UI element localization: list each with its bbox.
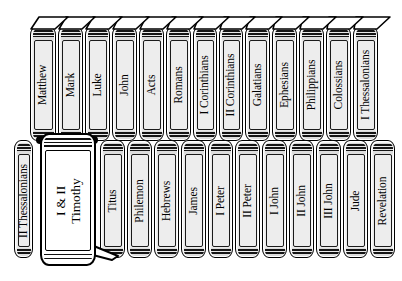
spine-panel: Colossians <box>330 40 348 130</box>
spine-panel: Matthew <box>34 40 53 130</box>
spine-tail-bands <box>302 131 322 139</box>
spine-head-bands <box>184 143 204 154</box>
book-spine[interactable]: Luke <box>85 26 110 141</box>
book-spine[interactable]: Matthew <box>30 26 56 141</box>
spine-panel: Hebrews <box>158 154 176 247</box>
spine-panel: Philippians <box>303 40 321 130</box>
book-spine[interactable]: II John <box>289 140 314 258</box>
spine-panel: II Corinthians <box>223 40 240 130</box>
book-spine[interactable]: I & II Timothy <box>40 133 96 266</box>
spine-panel: Mark <box>62 40 80 130</box>
book-spine[interactable]: Acts <box>139 26 164 141</box>
book-spine[interactable]: Hebrews <box>154 140 179 258</box>
spine-panel: I & II Timothy <box>45 150 91 251</box>
book-spine[interactable]: Revelation <box>370 140 395 258</box>
spine-panel: Acts <box>143 40 161 130</box>
book-title: Mark <box>65 73 77 98</box>
book-head-cover <box>353 15 392 30</box>
bookshelf-illustration: MatthewMarkLukeJohnActsRomansI Corinthia… <box>0 0 402 281</box>
book-title: II Peter <box>242 184 254 217</box>
book-spine[interactable]: II Peter <box>235 140 260 258</box>
book-spine[interactable]: Ephesians <box>272 26 297 141</box>
book-spine[interactable]: I Thessalonians <box>353 26 378 141</box>
spine-tail-bands <box>265 248 285 256</box>
book-title: Colossians <box>333 61 345 110</box>
spine-head-bands <box>319 143 339 154</box>
spine-tail-bands <box>356 131 376 139</box>
spine-tail-bands <box>275 131 295 139</box>
spine-panel: Ephesians <box>276 40 294 130</box>
spine-head-bands <box>373 143 393 154</box>
spine-head-bands <box>211 143 231 154</box>
book-title: II Corinthians <box>225 54 237 117</box>
spine-panel: I Peter <box>212 154 230 247</box>
spine-head-bands <box>265 143 285 154</box>
spine-tail-bands <box>115 131 135 139</box>
spine-panel: I Corinthians <box>197 40 214 130</box>
book-title: Philemon <box>134 179 146 222</box>
spine-panel: II John <box>293 154 311 247</box>
spine-panel: I John <box>266 154 284 247</box>
spine-panel: Galatians <box>249 40 267 130</box>
book-title: Titus <box>107 189 119 212</box>
spine-panel: III John <box>320 154 338 247</box>
spine-panel: Luke <box>89 40 107 130</box>
book-spine[interactable]: Philippians <box>299 26 324 141</box>
spine-panel: Romans <box>170 40 188 130</box>
book-spine[interactable]: Philemon <box>127 140 152 258</box>
book-title: Matthew <box>37 65 49 105</box>
spine-tail-bands <box>157 248 177 256</box>
book-spine[interactable]: James <box>181 140 206 258</box>
book-spine[interactable]: John <box>112 26 137 141</box>
spine-panel: II Peter <box>239 154 257 247</box>
spine-tail-bands <box>346 248 366 256</box>
spine-tail-bands <box>211 248 231 256</box>
spine-tail-bands <box>17 248 31 256</box>
spine-head-bands <box>61 29 81 40</box>
spine-tail-bands <box>222 131 241 139</box>
book-spine[interactable]: Jude <box>343 140 368 258</box>
spine-panel: Philemon <box>131 154 149 247</box>
spine-head-bands <box>196 29 215 40</box>
book-spine[interactable]: Titus <box>100 140 125 258</box>
spine-panel: Titus <box>104 154 122 247</box>
book-title: Luke <box>92 73 104 96</box>
spine-tail-bands <box>184 248 204 256</box>
spine-head-bands <box>356 29 376 40</box>
book-title: I John <box>269 187 281 215</box>
spine-tail-bands <box>169 131 189 139</box>
spine-head-bands <box>103 143 123 154</box>
spine-tail-bands <box>248 131 268 139</box>
book-spine[interactable]: Mark <box>58 26 83 141</box>
book-spine[interactable]: Galatians <box>245 26 270 141</box>
spine-tail-bands <box>329 131 349 139</box>
book-title: I Corinthians <box>199 55 211 114</box>
book-spine[interactable]: Romans <box>166 26 191 141</box>
book-title: Acts <box>146 75 158 96</box>
spine-head-bands <box>130 143 150 154</box>
spine-head-bands <box>292 143 312 154</box>
book-spine[interactable]: I John <box>262 140 287 258</box>
book-spine[interactable]: I Corinthians <box>193 26 217 141</box>
book-title: Ephesians <box>279 62 291 108</box>
spine-tail-bands <box>44 252 92 262</box>
spine-tail-bands <box>196 131 215 139</box>
book-title: Hebrews <box>161 180 173 220</box>
book-spine[interactable]: III John <box>316 140 341 258</box>
spine-tail-bands <box>292 248 312 256</box>
book-title: I Peter <box>215 186 227 216</box>
book-title: Jude <box>350 190 362 211</box>
book-title: II John <box>296 185 308 217</box>
spine-head-bands <box>88 29 108 40</box>
book-spine[interactable]: Colossians <box>326 26 351 141</box>
spine-panel: Jude <box>347 154 365 247</box>
spine-head-bands <box>346 143 366 154</box>
spine-head-bands <box>248 29 268 40</box>
spine-head-bands <box>302 29 322 40</box>
spine-tail-bands <box>238 248 258 256</box>
book-title: James <box>188 187 200 215</box>
book-spine[interactable]: II Corinthians <box>219 26 243 141</box>
spine-tail-bands <box>373 248 393 256</box>
book-spine[interactable]: I Peter <box>208 140 233 258</box>
book-spine[interactable]: II Thessalonians <box>14 140 33 258</box>
